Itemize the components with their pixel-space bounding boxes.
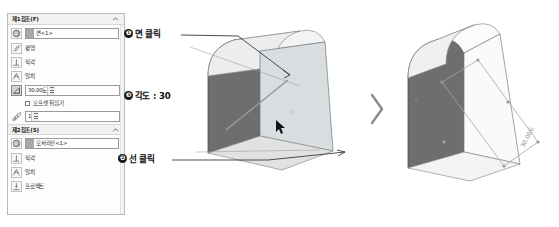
section-title: 제1참조(F) [12,15,39,23]
model-selected-face [260,42,333,151]
chevron-up-icon[interactable] [112,16,119,23]
plane-count-field[interactable]: 1 [25,111,120,122]
constraint-label-perpendicular: 직각 [25,58,35,66]
callout-badge-2: ❷ [118,154,127,163]
flip-offset-label: 오프셋 뒤집기 [33,99,63,107]
callout-click-line: ❷ 선 클릭 [118,152,155,164]
callout-text-1: 면 클릭 [135,27,161,39]
constraint-row-coincident-2[interactable]: 일치 [8,165,124,179]
num-planes-icon [11,111,22,122]
plane-handle-dot [443,141,446,144]
flip-offset-checkbox[interactable] [25,101,30,106]
constraint-row-parallel[interactable]: 평행 [8,41,124,55]
first-reference-field[interactable]: 면<1> [25,28,119,39]
section-header-first-reference[interactable]: 제1참조(F) [8,14,124,25]
callout-text-2: 선 클릭 [129,152,155,164]
plane-count-row[interactable]: 1 [8,109,124,123]
callout-click-face: ❶ 면 클릭 [124,27,161,39]
callout-badge-1: ❶ [124,29,133,38]
constraint-row-project[interactable]: 프로젝트 [8,179,124,193]
section-header-second-reference[interactable]: 제2참조(S) [8,124,124,135]
angle-value: 30.00도 [26,86,47,94]
property-manager-panel: 제1참조(F) 면<1> 평행 [7,13,125,215]
first-reference-selection-row[interactable]: 면<1> [8,25,124,41]
constraint-row-perpendicular-2[interactable]: 직각 [8,151,124,165]
constraint-label-perpendicular-2: 직각 [25,154,35,162]
perpendicular-icon[interactable] [11,153,22,164]
first-reference-value: 면<1> [34,29,53,37]
coincident-icon[interactable] [11,167,22,178]
callout-badge-3: ❸ [124,91,133,100]
callout-text-3: 각도 : 30 [135,89,171,101]
chevron-right-icon [368,92,386,126]
wedge-model-before [190,18,350,188]
model-vertex-dot [290,111,292,113]
panel-scrollbar[interactable] [120,25,124,214]
angle-icon[interactable] [11,85,22,96]
plane-handle-dot [536,140,539,143]
field-color-swatch [26,139,34,148]
project-icon[interactable] [11,181,22,192]
constraint-label-project: 프로젝트 [25,182,44,190]
wedge-model-after: 30.00도 [400,16,555,196]
constraint-label-coincident-2: 일치 [25,168,35,176]
plane-icon [11,138,22,149]
plane-handle-dot [440,80,443,83]
flip-offset-row[interactable]: 오프셋 뒤집기 [8,97,124,109]
model-vertex-dot [415,99,417,101]
second-reference-selection-row[interactable]: 모서리선<1> [8,135,124,151]
plane-handle-dot [506,100,509,103]
angle-row[interactable]: 30.00도 [8,83,124,97]
section-title: 제2참조(S) [12,126,39,134]
constraint-row-coincident[interactable]: 일치 [8,69,124,83]
coincident-icon[interactable] [11,71,22,82]
parallel-icon[interactable] [11,43,22,54]
constraint-label-coincident: 일치 [25,72,35,80]
angle-field[interactable]: 30.00도 [25,85,120,96]
callout-angle-value: ❸ 각도 : 30 [124,89,170,101]
field-color-swatch [26,29,34,38]
constraint-row-perpendicular[interactable]: 직각 [8,55,124,69]
second-reference-field[interactable]: 모서리선<1> [25,138,119,149]
chevron-up-icon[interactable] [112,126,119,133]
spinner-icon[interactable] [47,86,55,95]
plane-icon [11,28,22,39]
model-front-face [464,34,520,164]
second-reference-value: 모서리선<1> [34,139,67,147]
spinner-icon[interactable] [31,112,39,121]
perpendicular-icon[interactable] [11,57,22,68]
plane-handle-dot [476,58,479,61]
plane-handle-dot [502,164,505,167]
constraint-label-parallel: 평행 [25,44,35,52]
